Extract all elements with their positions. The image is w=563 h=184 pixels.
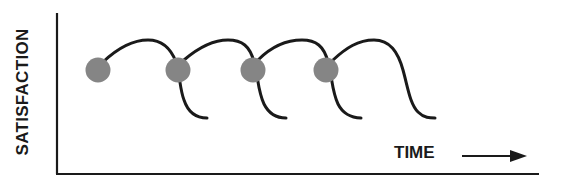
curve-2 [184,40,286,118]
curve-1 [103,40,207,118]
cycle-node-4 [314,58,339,83]
satisfaction-curves [103,40,435,118]
cycle-node-2 [166,58,191,83]
curve-4 [333,40,435,118]
x-axis-label: TIME [394,143,435,163]
cycle-node-1 [86,58,111,83]
curve-3 [258,40,361,118]
cycle-nodes [86,58,339,83]
cycle-node-3 [241,58,266,83]
satisfaction-curve-diagram [0,0,563,184]
arrow-right-icon [462,150,527,162]
